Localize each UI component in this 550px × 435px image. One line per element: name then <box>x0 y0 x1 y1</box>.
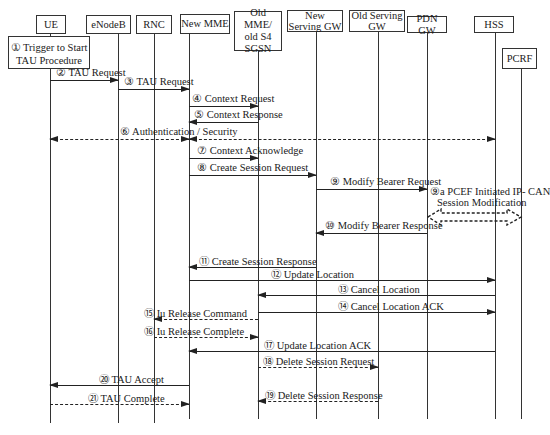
message-9a-label: ⑨a PCEF Initiated IP- CAN <box>430 185 550 197</box>
entity-label: Old MME/ old S4 SGSN <box>237 7 279 55</box>
entity-label: New Serving GW <box>288 10 342 32</box>
entity-rnc: RNC <box>136 15 172 34</box>
message-label: ⑦ Context Acknowledge <box>197 144 303 156</box>
entity-label: Old Serving GW <box>350 10 404 32</box>
entity-new-mme: New MME <box>180 14 230 34</box>
message-label: ⑱ Delete Session Request <box>263 353 374 368</box>
message-label: ④ Context Request <box>192 92 274 104</box>
entity-enodeb: eNodeB <box>86 15 131 34</box>
arrow-right-icon <box>250 334 259 340</box>
message-label: ⑰ Update Location ACK <box>264 337 371 352</box>
note-text: ① Trigger to Start TAU Procedure <box>11 42 88 66</box>
arrow-right-icon <box>308 172 317 178</box>
message-label: ⑤ Context Response <box>194 108 283 120</box>
arrow-right-icon <box>487 136 496 142</box>
arrow-left-icon <box>315 230 324 236</box>
message-label: ⑩ Modify Bearer Response <box>325 219 443 231</box>
entity-pdn-gw: PDN GW <box>407 16 447 33</box>
entity-label: PCRF <box>507 53 533 65</box>
message-label: ⑳ TAU Accept <box>99 371 164 386</box>
arrow-left-icon <box>257 292 266 298</box>
message-label: ⑭ Cancel Location ACK <box>338 298 444 313</box>
entity-label: eNodeB <box>91 19 125 31</box>
entity-label: RNC <box>143 19 165 31</box>
entity-old-mme: Old MME/ old S4 SGSN <box>234 11 282 51</box>
arrow-left-icon <box>188 348 197 354</box>
arrow-right-icon <box>181 401 190 407</box>
message-label: ⑯ Iu Release Complete <box>144 323 244 338</box>
entity-ue: UE <box>36 15 66 34</box>
message-label: ⑥ Authentication / Security <box>120 125 238 137</box>
lifeline-ue <box>50 34 51 423</box>
message-9a-label-line2: Session Modification <box>437 197 527 208</box>
arrow-right-icon <box>487 277 496 283</box>
message-label: ⑬ Cancel Location <box>338 281 420 296</box>
arrow-right-icon <box>487 309 496 315</box>
arrow-left-icon <box>188 136 197 142</box>
message-label: ㉑ TAU Complete <box>88 390 165 405</box>
message-label: ⑧ Create Session Request <box>197 161 308 173</box>
entity-label: HSS <box>484 19 503 31</box>
message-label: ③ TAU Request <box>124 75 194 87</box>
message-label: ⑨ Modify Bearer Request <box>330 175 441 187</box>
arrow-left-icon <box>49 382 58 388</box>
arrow-left-icon <box>188 264 197 270</box>
message-label: ② TAU Request <box>56 66 126 78</box>
message-label: ⑮ Iu Release Command <box>144 305 247 320</box>
entity-new-sgw: New Serving GW <box>287 10 343 32</box>
arrow-left-icon <box>49 136 58 142</box>
entity-hss: HSS <box>474 16 514 33</box>
entity-old-sgw: Old Serving GW <box>349 10 405 32</box>
message-label: ⑲ Delete Session Response <box>265 387 383 402</box>
message-label: ⑫ Update Location <box>271 266 354 281</box>
entity-label: UE <box>44 19 58 31</box>
lifeline-pcrf <box>521 69 522 419</box>
lifeline-rnc <box>154 34 155 423</box>
lifeline-enodeb <box>118 34 119 423</box>
entity-pcrf: PCRF <box>502 48 537 69</box>
entity-label: New MME <box>181 18 229 30</box>
note-trigger-tau: ① Trigger to Start TAU Procedure <box>8 36 90 69</box>
lifeline-hss <box>495 33 496 419</box>
